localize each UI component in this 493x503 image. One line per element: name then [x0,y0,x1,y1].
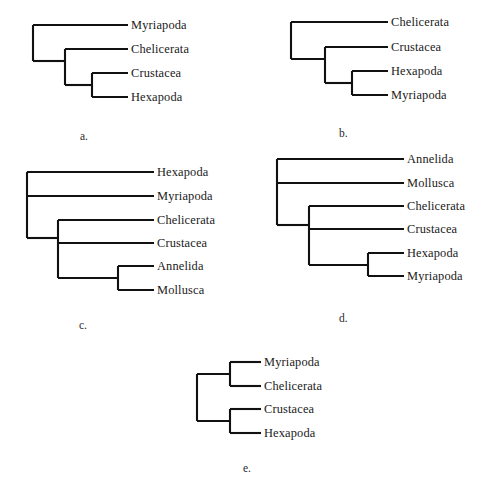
tip-label-d-annelida: Annelida [407,153,454,165]
tree-e [197,362,261,433]
tip-label-d-hexapoda: Hexapoda [407,247,458,259]
tree-d [277,159,404,276]
tip-label-e-hexapoda: Hexapoda [264,427,315,439]
tip-label-e-myriapoda: Myriapoda [264,356,320,368]
panel-caption-d: d. [339,313,348,325]
tip-label-c-hexapoda: Hexapoda [157,166,208,178]
phylogenetic-tree-figure: MyriapodaChelicerataCrustaceaHexapodaa.C… [0,0,493,503]
tip-label-c-chelicerata: Chelicerata [157,214,215,226]
tip-label-d-myriapoda: Myriapoda [407,270,463,282]
tip-label-e-crustacea: Crustacea [264,403,314,415]
panel-caption-e: e. [243,463,251,475]
tip-label-c-crustacea: Crustacea [157,237,207,249]
tip-label-a-crustacea: Crustacea [131,67,181,79]
panel-caption-b: b. [339,128,348,140]
tree-c [27,172,154,290]
tip-label-b-chelicerata: Chelicerata [391,16,449,28]
tip-label-a-hexapoda: Hexapoda [131,91,182,103]
tip-label-b-myriapoda: Myriapoda [391,89,447,101]
tip-label-e-chelicerata: Chelicerata [264,380,322,392]
tip-label-d-mollusca: Mollusca [407,177,454,189]
tip-label-c-myriapoda: Myriapoda [157,190,213,202]
panel-caption-c: c. [79,320,87,332]
tree-b [291,22,388,95]
tip-label-a-chelicerata: Chelicerata [131,43,189,55]
tree-a [33,25,128,97]
tip-label-c-mollusca: Mollusca [157,284,204,296]
panel-caption-a: a. [80,131,88,143]
tip-label-c-annelida: Annelida [157,260,204,272]
tip-label-b-hexapoda: Hexapoda [391,65,442,77]
tip-label-a-myriapoda: Myriapoda [131,19,187,31]
tip-label-d-crustacea: Crustacea [407,223,457,235]
tip-label-b-crustacea: Crustacea [391,41,441,53]
tip-label-d-chelicerata: Chelicerata [407,200,465,212]
